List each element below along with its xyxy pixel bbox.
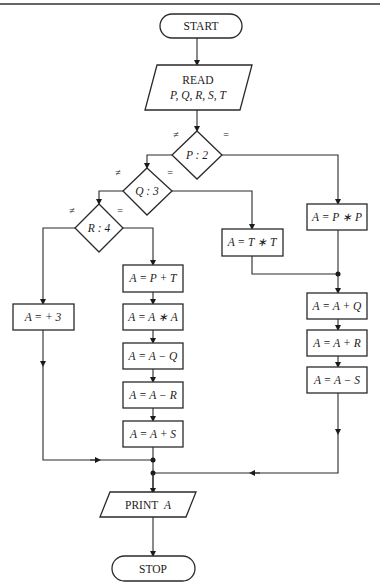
decision-q3: Q : 3 ≠ = (115, 167, 173, 215)
process-a-eq-a-times-a: A = A ∗ A (123, 304, 183, 330)
start-label: START (184, 20, 219, 32)
line-left-return (43, 364, 95, 460)
process-label: A = + 3 (24, 311, 62, 323)
arrow-d3-ne (43, 228, 75, 302)
process-a-eq-a-plus-q: A = A + Q (307, 293, 367, 319)
arrow-d1-eq (222, 155, 338, 202)
process-label: A = A ∗ A (127, 311, 178, 323)
process-label: A = A − Q (128, 350, 178, 362)
process-label: A = A + R (312, 337, 360, 349)
decision-r4-ne: ≠ (69, 205, 75, 216)
print-label: PRINT A (125, 499, 172, 511)
decision-q3-eq: = (167, 167, 173, 178)
decision-p2-label: P : 2 (185, 149, 208, 161)
decision-r4-eq: = (117, 205, 123, 216)
line-right-return (255, 432, 338, 473)
decision-r4: R : 4 ≠ = (69, 204, 123, 252)
arrow-d2-ne (99, 191, 123, 202)
process-a-eq-t-times-t: A = T ∗ T (222, 229, 283, 256)
read-input-block: READ P, Q, R, S, T (145, 65, 252, 110)
read-title: READ (182, 74, 213, 86)
process-a-eq-p-times-p: A = P ∗ P (307, 204, 367, 230)
decision-q3-label: Q : 3 (135, 185, 159, 197)
print-word: PRINT (125, 499, 158, 511)
arrow-d3-eq (123, 228, 153, 263)
process-a-eq-a-minus-s: A = A − S (307, 367, 367, 393)
stop-terminal: STOP (112, 556, 195, 581)
decision-p2-eq: = (223, 129, 229, 140)
stop-label: STOP (139, 563, 167, 575)
decision-r4-label: R : 4 (87, 222, 111, 234)
decision-p2: P : 2 ≠ = (172, 129, 229, 179)
start-terminal: START (160, 14, 242, 38)
arrow-d2-eq (172, 191, 252, 227)
process-label: A = A + S (129, 428, 176, 440)
process-a-eq-a-plus-s: A = A + S (123, 421, 183, 447)
decision-p2-ne: ≠ (173, 129, 179, 140)
process-label: A = P + T (128, 272, 178, 284)
line-tt-to-merge (252, 256, 338, 274)
process-a-eq-a-minus-q: A = A − Q (123, 343, 183, 369)
merge-dot-left (151, 458, 156, 463)
flowchart-canvas: START READ P, Q, R, S, T P : 2 ≠ = Q : 3… (0, 0, 380, 588)
process-a-eq-a-minus-r: A = A − R (123, 382, 183, 408)
decision-q3-ne: ≠ (115, 167, 121, 178)
process-label: A = A + Q (312, 300, 362, 312)
arrow-d1-ne (147, 155, 172, 166)
process-label: A = P ∗ P (311, 211, 362, 223)
process-label: A = T ∗ T (227, 236, 278, 248)
process-label: A = A − R (128, 389, 176, 401)
print-var: A (163, 499, 172, 511)
print-output-block: PRINT A (100, 492, 196, 517)
process-a-eq-p-plus-t: A = P + T (123, 265, 183, 292)
read-vars: P, Q, R, S, T (169, 89, 228, 102)
process-label: A = A − S (313, 374, 360, 386)
process-a-eq-a-plus-r: A = A + R (307, 330, 367, 356)
process-a-eq-plus-3: A = + 3 (13, 304, 74, 330)
